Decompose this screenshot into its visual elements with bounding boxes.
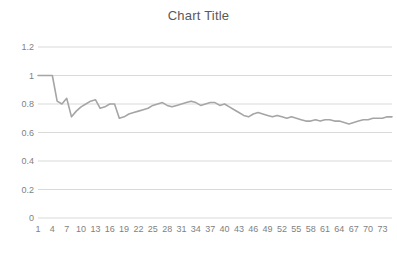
x-axis-tick-label: 73 <box>377 224 387 234</box>
x-axis-tick-label: 10 <box>76 224 86 234</box>
gridlines <box>38 47 392 218</box>
x-axis-tick-label: 34 <box>191 224 201 234</box>
x-axis-tick-label: 31 <box>176 224 186 234</box>
x-axis-tick-label: 22 <box>133 224 143 234</box>
x-axis-tick-label: 64 <box>334 224 344 234</box>
x-axis-tick-label: 52 <box>277 224 287 234</box>
x-axis-tick-label: 16 <box>105 224 115 234</box>
series-line-1 <box>38 76 392 124</box>
x-axis-tick-label: 19 <box>119 224 129 234</box>
x-axis-tick-label: 4 <box>50 224 55 234</box>
chart-container: Chart Title 00.20.40.60.811.2 1471013161… <box>0 0 397 254</box>
x-axis-tick-label: 1 <box>35 224 40 234</box>
chart-plot <box>0 0 397 254</box>
x-axis-tick-label: 55 <box>291 224 301 234</box>
x-axis-tick-label: 37 <box>205 224 215 234</box>
x-axis-tick-label: 43 <box>234 224 244 234</box>
x-axis-tick-label: 61 <box>320 224 330 234</box>
x-axis-tick-label: 46 <box>248 224 258 234</box>
x-axis-tick-label: 58 <box>306 224 316 234</box>
x-axis-tick-label: 67 <box>349 224 359 234</box>
x-axis-tick-label: 40 <box>220 224 230 234</box>
x-axis-tick-label: 70 <box>363 224 373 234</box>
x-axis-tick-label: 49 <box>263 224 273 234</box>
x-axis-tick-label: 7 <box>64 224 69 234</box>
x-axis-tick-label: 25 <box>148 224 158 234</box>
x-axis-tick-label: 13 <box>90 224 100 234</box>
x-axis-tick-label: 28 <box>162 224 172 234</box>
x-axis-labels: 1471013161922252831343740434649525558616… <box>38 222 393 242</box>
